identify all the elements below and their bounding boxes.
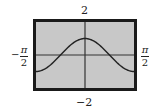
x-min-label: π 2 [20, 45, 28, 68]
x-max-numerator: π [142, 45, 149, 55]
plot-area [36, 22, 134, 88]
y-max-label: 2 [81, 5, 88, 16]
x-max-denominator: 2 [142, 58, 148, 68]
x-min-denominator: 2 [21, 58, 27, 68]
x-min-numerator: π [21, 45, 28, 55]
x-min-sign: − [11, 49, 19, 60]
y-min-label: −2 [76, 97, 92, 108]
x-max-label: π 2 [141, 45, 149, 68]
